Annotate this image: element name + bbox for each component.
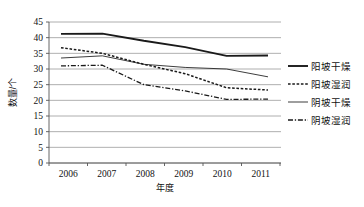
y-tick-label: 5 xyxy=(38,143,43,153)
y-tick-label: 45 xyxy=(34,17,44,27)
y-tick-label: 35 xyxy=(34,49,44,59)
y-tick-label: 40 xyxy=(34,33,44,43)
y-tick-label: 10 xyxy=(34,127,44,137)
y-tick-label: 25 xyxy=(34,80,44,90)
y-axis-title: 数量/个 xyxy=(7,78,18,108)
legend-item-label: 阴坡湿润 xyxy=(311,115,351,126)
chart-legend: 阳坡干燥阳坡湿润阴坡干燥阴坡湿润 xyxy=(288,61,351,126)
x-tick-label: 2009 xyxy=(174,169,193,179)
legend-item-label: 阳坡湿润 xyxy=(311,79,351,90)
legend-item-label: 阳坡干燥 xyxy=(311,61,351,72)
series-line xyxy=(61,56,268,77)
y-tick-label: 20 xyxy=(34,96,44,106)
series-line xyxy=(61,65,268,99)
line-chart: 051015202530354045 200620072008200920102… xyxy=(0,0,364,207)
x-tick-label: 2010 xyxy=(213,169,232,179)
x-tick-label: 2008 xyxy=(136,169,155,179)
y-axis-tick-labels: 051015202530354045 xyxy=(34,17,44,168)
series-lines xyxy=(61,34,268,100)
y-tick-label: 0 xyxy=(38,158,43,168)
x-tick-label: 2006 xyxy=(59,169,78,179)
y-tick-label: 15 xyxy=(34,111,44,121)
x-axis-tick-labels: 200620072008200920102011 xyxy=(59,169,271,179)
chart-canvas: 051015202530354045 200620072008200920102… xyxy=(0,0,364,207)
x-tick-label: 2007 xyxy=(97,169,116,179)
y-tick-label: 30 xyxy=(34,64,44,74)
legend-item-label: 阴坡干燥 xyxy=(311,97,351,108)
x-axis-title: 年度 xyxy=(156,182,174,193)
x-tick-label: 2011 xyxy=(251,169,270,179)
